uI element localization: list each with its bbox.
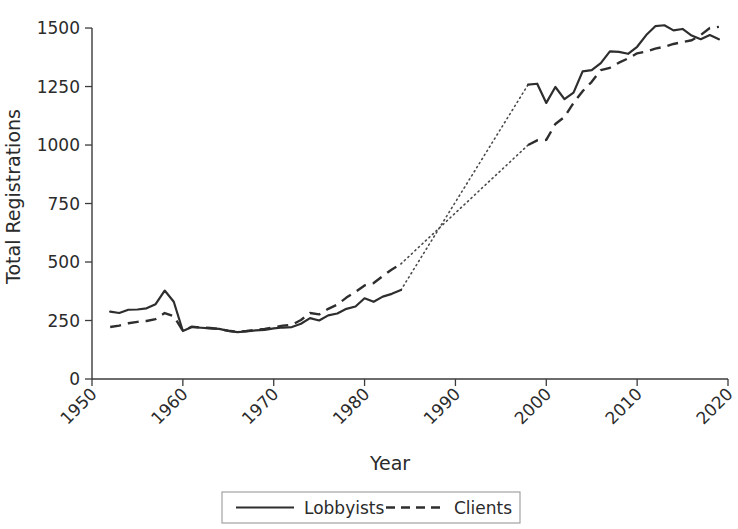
plot-series-group bbox=[110, 25, 719, 332]
line-chart: 0250500750100012501500 19501960197019801… bbox=[0, 0, 738, 529]
x-tick-group: 19501960197019801990200020102020 bbox=[56, 379, 737, 428]
x-axis-title: Year bbox=[369, 452, 410, 474]
y-tick-label-0: 0 bbox=[69, 369, 80, 389]
series-line-clients-recent bbox=[528, 27, 719, 145]
y-tick-label-750: 750 bbox=[48, 194, 80, 214]
x-tick-label-1980: 1980 bbox=[329, 384, 374, 429]
chart-figure: 0250500750100012501500 19501960197019801… bbox=[0, 0, 738, 529]
legend-label-lobbyists: Lobbyists bbox=[304, 498, 384, 518]
gap-connector-clients bbox=[401, 145, 528, 264]
x-axis-group: 19501960197019801990200020102020 bbox=[56, 379, 737, 428]
chart-legend: LobbyistsClients bbox=[222, 492, 520, 523]
x-tick-label-1970: 1970 bbox=[238, 384, 283, 429]
y-tick-label-1000: 1000 bbox=[37, 135, 80, 155]
series-line-lobbyists-recent bbox=[528, 25, 719, 103]
y-axis-group: 0250500750100012501500 bbox=[37, 18, 92, 389]
y-tick-label-1250: 1250 bbox=[37, 77, 80, 97]
x-tick-label-2020: 2020 bbox=[692, 384, 737, 429]
legend-label-clients: Clients bbox=[454, 498, 512, 518]
y-tick-label-1500: 1500 bbox=[37, 18, 80, 38]
x-tick-label-1990: 1990 bbox=[420, 384, 465, 429]
y-axis-title: Total Registrations bbox=[2, 109, 24, 285]
y-tick-group: 0250500750100012501500 bbox=[37, 18, 92, 389]
x-tick-label-1950: 1950 bbox=[56, 384, 101, 429]
series-line-clients-early bbox=[110, 264, 401, 332]
x-tick-label-2000: 2000 bbox=[510, 384, 555, 429]
gap-connector-lobbyists bbox=[401, 85, 528, 290]
y-tick-label-500: 500 bbox=[48, 252, 80, 272]
x-tick-label-2010: 2010 bbox=[601, 384, 646, 429]
y-tick-label-250: 250 bbox=[48, 311, 80, 331]
series-line-lobbyists-early bbox=[110, 290, 401, 332]
x-tick-label-1960: 1960 bbox=[147, 384, 192, 429]
